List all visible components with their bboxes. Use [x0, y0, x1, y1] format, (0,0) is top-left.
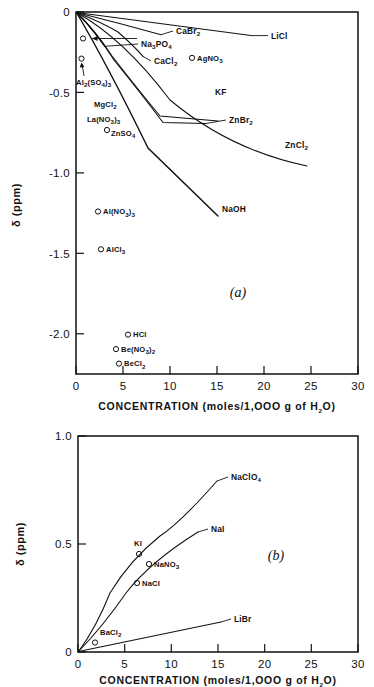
y-tick-label: -1.5 [49, 248, 70, 260]
series-label-libr: LiBr [221, 614, 252, 624]
scatter-point-znso4: ZnSO4 [104, 127, 135, 139]
series-label-nai: NaI [198, 524, 225, 534]
series-curve-cacl2 [77, 13, 144, 57]
x-tick-label: 25 [304, 380, 317, 392]
y-axis-title-a: δ (ppm) [10, 183, 22, 227]
y-axis-ticks-b [78, 436, 86, 652]
x-tick-label: 20 [257, 380, 270, 392]
svg-text:ZnSO4: ZnSO4 [111, 129, 136, 139]
x-axis-title-b: CONCENTRATION (moles/1,OOO g of H2O) [99, 674, 336, 687]
scatter-label-lano33: La(NO3)3 [87, 115, 121, 125]
scatter-point-al2so43: Al2(SO4)3 [76, 56, 112, 88]
x-axis-title-main: CONCENTRATION [98, 400, 198, 412]
x-axis-ticks-a [76, 366, 358, 374]
x-axis-title-a: CONCENTRATION (moles/1,OOO g of H2O) [98, 400, 335, 414]
x-axis-title-paren-close: O) [323, 400, 336, 412]
x-axis-title-paren-close: O) [324, 674, 337, 686]
series-curve-cabr2 [77, 13, 162, 35]
scatter-point-unlabeled [80, 36, 85, 41]
x-axis-ticks-b [78, 644, 358, 652]
svg-text:CONCENTRATION (moles/1,OOO g o: CONCENTRATION (moles/1,OOO g of H2O) [98, 400, 335, 414]
svg-text:NaI: NaI [211, 524, 225, 534]
y-axis-tick-labels-a: 0 -0.5 -1.0 -1.5 -2.0 [49, 6, 70, 340]
chart-panel-a: 0 -0.5 -1.0 -1.5 -2.0 0 5 10 15 20 25 30… [0, 0, 374, 420]
scatter-point-nano3: NaNO3 [146, 560, 179, 570]
svg-text:NaNO3: NaNO3 [154, 560, 180, 570]
panel-label-b: (b) [268, 548, 285, 564]
series-label-naoh: NaOH [222, 204, 246, 214]
scatter-point-nacl: NaCl [134, 579, 160, 588]
svg-text:HCl: HCl [133, 330, 147, 339]
y-tick-label: -2.0 [49, 328, 70, 340]
x-axis-tick-labels-a: 0 5 10 15 20 25 30 [73, 380, 365, 392]
x-axis-tick-labels-b: 0 5 10 15 20 25 30 [75, 658, 365, 670]
x-axis-title-paren-open: (moles/1,OOO g of H [202, 400, 318, 412]
x-tick-label: 30 [351, 658, 364, 670]
series-label-text: CaBr2 [176, 26, 201, 37]
svg-text:Al2(SO4)3: Al2(SO4)3 [76, 78, 112, 88]
series-label-text: Na3PO4 [141, 39, 172, 50]
x-tick-label: 30 [351, 380, 364, 392]
figure-container: 0 -0.5 -1.0 -1.5 -2.0 0 5 10 15 20 25 30… [0, 0, 374, 687]
y-tick-label: -1.0 [49, 167, 70, 179]
series-curve-nai [79, 532, 199, 652]
scatter-point-becl2: BeCl2 [116, 359, 146, 369]
y-tick-label: 0 [65, 646, 72, 658]
x-tick-label: 10 [165, 658, 178, 670]
svg-text:KI: KI [134, 539, 142, 548]
series-label-na3po4: Na3PO4 [105, 39, 173, 50]
x-axis-title-main: CONCENTRATION [99, 674, 199, 686]
panel-label-a: (a) [230, 285, 247, 301]
x-tick-label: 15 [210, 380, 223, 392]
svg-text:BeCl2: BeCl2 [124, 359, 146, 369]
svg-text:AgNO3: AgNO3 [197, 54, 223, 64]
x-axis-title-paren-open: (moles/1,OOO g of H [203, 674, 319, 686]
x-tick-label: 0 [75, 658, 82, 670]
svg-text:NaCl: NaCl [142, 579, 160, 588]
scatter-label-mgcl2: MgCl2 [94, 100, 117, 110]
y-tick-label: 1.0 [55, 430, 72, 442]
y-tick-label: -0.5 [49, 87, 70, 99]
series-label-naclo4: NaClO4 [217, 472, 262, 483]
series-label-text: ZnBr2 [229, 115, 253, 126]
y-tick-label: 0 [63, 6, 70, 18]
svg-text:AlCl3: AlCl3 [106, 245, 126, 255]
y-tick-label: 0.5 [55, 538, 72, 550]
series-label-text: NaClO4 [231, 472, 262, 483]
scatter-point-agno3: AgNO3 [189, 54, 223, 64]
svg-text:LiBr: LiBr [234, 614, 252, 624]
y-axis-tick-labels-b: 1.0 0.5 0 [55, 430, 72, 658]
x-tick-label: 10 [163, 380, 176, 392]
series-label-kf: KF [215, 87, 227, 97]
x-tick-label: 5 [120, 380, 127, 392]
plot-frame-a [76, 12, 358, 374]
chart-panel-b: 1.0 0.5 0 0 5 10 15 20 25 30 CONCENTRATI… [0, 420, 374, 687]
series-label-licl: LiCl [251, 31, 288, 41]
series-label-zncl2: ZnCl2 [285, 140, 308, 151]
x-tick-label: 20 [258, 658, 271, 670]
y-axis-title-b: δ (ppm) [14, 522, 26, 566]
svg-text:Be(NO3)2: Be(NO3)2 [121, 345, 156, 355]
svg-text:Al(NO3)3: Al(NO3)3 [103, 207, 136, 217]
x-tick-label: 5 [121, 658, 128, 670]
svg-text:LiCl: LiCl [271, 31, 288, 41]
plot-frame-b [78, 436, 358, 652]
scatter-point-alcl3: AlCl3 [98, 245, 125, 255]
scatter-point-alno33: Al(NO3)3 [95, 207, 135, 217]
svg-text:BaCl2: BaCl2 [100, 628, 122, 638]
scatter-point-hcl: HCl [125, 330, 146, 339]
series-label-cabr2: CaBr2 [161, 26, 201, 37]
x-tick-label: 25 [305, 658, 318, 670]
scatter-point-beno32: Be(NO3)2 [113, 345, 155, 355]
x-tick-label: 0 [73, 380, 80, 392]
al2so43-label: Al2(SO4)3 [76, 78, 112, 88]
svg-text:CONCENTRATION (moles/1,OOO g o: CONCENTRATION (moles/1,OOO g of H2O) [99, 674, 336, 687]
series-label-text: CaCl2 [154, 56, 178, 67]
x-tick-label: 15 [211, 658, 224, 670]
series-label-cacl2: CaCl2 [143, 56, 178, 67]
